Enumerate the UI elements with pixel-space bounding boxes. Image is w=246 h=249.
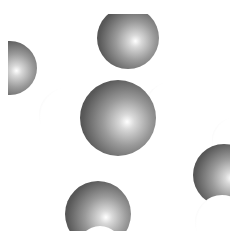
hydrogen-atom-h-right-bottom: [195, 195, 230, 231]
carbon-atom-c-top: [97, 14, 159, 69]
carbon-atom-c-bottom: [65, 181, 131, 231]
carbon-atom-c-center: [80, 80, 156, 156]
carbon-atom-c-left: [8, 41, 37, 95]
render-viewport: [8, 14, 230, 231]
molecule-render: [0, 0, 246, 249]
